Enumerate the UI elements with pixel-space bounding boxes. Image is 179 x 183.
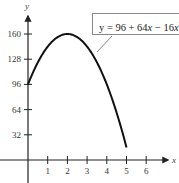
- svg-text:64: 64: [12, 105, 22, 115]
- y-axis-label: y: [24, 1, 29, 11]
- svg-text:6: 6: [144, 166, 149, 176]
- svg-text:32: 32: [12, 130, 21, 140]
- label-leader-line: [97, 36, 112, 52]
- svg-text:1: 1: [45, 166, 50, 176]
- svg-text:5: 5: [124, 166, 129, 176]
- svg-text:2: 2: [65, 166, 70, 176]
- svg-text:4: 4: [105, 166, 110, 176]
- x-axis-label: x: [171, 155, 176, 165]
- equation-label: y = 96 + 64x − 16x2: [92, 13, 179, 35]
- svg-text:160: 160: [8, 29, 22, 39]
- parabola-curve: [28, 34, 127, 147]
- svg-text:128: 128: [8, 54, 22, 64]
- x-ticks: 123456: [45, 156, 149, 176]
- svg-text:96: 96: [12, 79, 22, 89]
- svg-text:3: 3: [85, 166, 90, 176]
